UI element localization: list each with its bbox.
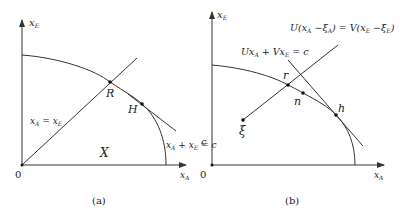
budget-equation-a: xA + xE = c [166,140,216,151]
point-n [301,91,305,95]
diagonal-equation: xA = xE [30,116,63,127]
label-h: h [338,102,345,115]
production-frontier-a [22,55,166,165]
y-axis-label-a: xE [29,17,40,29]
label-R: R [105,87,114,100]
label-X: X [99,146,109,160]
point-r [286,83,290,87]
diagonal-line-a [22,58,137,165]
caption-b: (b) [285,195,299,206]
x-axis-label-a: xA [180,170,190,181]
two-panel-diagram: xE xA 0 R H X xA = xE xA + xE = c (a) xE… [0,0,400,215]
caption-a: (a) [92,195,106,206]
label-r: r [283,69,289,82]
label-H: H [127,103,138,116]
ray-equation-b: U(xA −ξA) = V(xE −ξE) [290,22,395,34]
panel-b: xE xA 0 c r n h ξ UxA + VxE = c U(xA −ξA… [200,9,395,206]
origin-b [211,164,214,167]
point-R [108,80,112,84]
budget-equation-b: UxA + VxE = c [241,46,309,58]
origin-label-a: 0 [15,169,21,180]
y-axis-label-b: xE [217,9,228,21]
label-xi: ξ [239,124,247,138]
panel-a: xE xA 0 R H X xA = xE xA + xE = c (a) [15,17,216,206]
point-xi [241,118,245,122]
label-n: n [294,95,301,108]
origin-a [21,164,24,167]
origin-label-b: 0 [200,169,206,180]
point-H [140,102,144,106]
c-label-b: c [201,136,207,147]
x-axis-label-b: xA [374,170,384,181]
